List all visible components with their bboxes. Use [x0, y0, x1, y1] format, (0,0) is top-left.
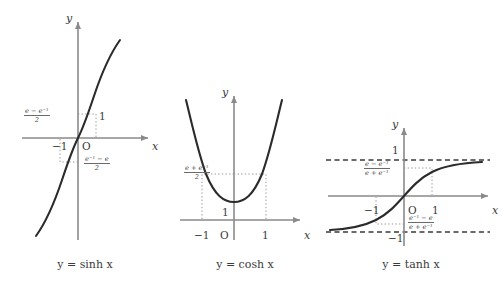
tanh-caption: y = tanh x — [320, 258, 502, 271]
cosh-svg — [170, 8, 320, 248]
tanh-ytick-negative-numerator: e⁻¹ − e — [408, 214, 434, 222]
cosh-x-arrowhead — [293, 217, 300, 223]
plot-cosh — [170, 8, 320, 248]
sinh-ytick-negative: e⁻¹ − e 2 — [84, 155, 110, 172]
sinh-xtick-1: 1 — [99, 110, 106, 122]
tanh-ytick-positive: e − e⁻¹ e + e⁻¹ — [364, 160, 390, 177]
tanh-x-axis-label: x — [492, 204, 498, 217]
sinh-caption: y = sinh x — [0, 258, 170, 271]
cosh-ytick-one: 1 — [222, 206, 229, 218]
sinh-ytick-positive-denominator: 2 — [24, 115, 50, 124]
tanh-ytick-negative-denominator: e + e⁻¹ — [408, 222, 434, 231]
sinh-xtick-neg1: −1 — [52, 140, 67, 152]
plot-sinh — [0, 8, 170, 248]
cosh-y-arrowhead — [231, 96, 237, 103]
sinh-y-axis-label: y — [66, 12, 72, 25]
cosh-ytick-value-denominator: 2 — [184, 172, 210, 181]
cosh-y-axis-label: y — [222, 86, 228, 99]
cosh-caption: y = cosh x — [170, 258, 320, 271]
tanh-ytick-neg-one: −1 — [388, 232, 403, 244]
cosh-origin-label: O — [220, 229, 229, 241]
tanh-ytick-one: 1 — [392, 144, 399, 156]
sinh-ytick-negative-denominator: 2 — [84, 163, 110, 172]
panel-tanh: y x O −1 1 1 −1 e − e⁻¹ e + e⁻¹ e⁻¹ − e … — [320, 0, 502, 295]
sinh-ytick-positive: e − e⁻¹ 2 — [24, 107, 50, 124]
panel-cosh: y x O −1 1 1 e + e⁻¹ 2 y = cosh x — [170, 0, 320, 295]
sinh-x-arrowhead — [141, 135, 148, 141]
tanh-y-axis-label: y — [392, 118, 398, 131]
tanh-ytick-negative: e⁻¹ − e e + e⁻¹ — [408, 214, 434, 231]
tanh-x-arrowhead — [481, 193, 488, 199]
cosh-xtick-1: 1 — [262, 229, 269, 241]
tanh-xtick-neg1: −1 — [364, 204, 379, 216]
panel-sinh: y x O −1 1 e − e⁻¹ 2 e⁻¹ − e 2 y = sinh … — [0, 0, 170, 295]
sinh-ytick-negative-numerator: e⁻¹ − e — [84, 155, 110, 163]
sinh-x-axis-label: x — [152, 140, 158, 153]
cosh-xtick-neg1: −1 — [194, 229, 209, 241]
cosh-guide-right — [234, 174, 266, 220]
cosh-ytick-value-numerator: e + e⁻¹ — [184, 164, 210, 172]
sinh-origin-label: O — [82, 140, 91, 152]
sinh-y-arrowhead — [75, 22, 81, 29]
cosh-x-axis-label: x — [304, 229, 310, 242]
tanh-y-arrowhead — [401, 128, 407, 135]
sinh-ytick-positive-numerator: e − e⁻¹ — [24, 107, 50, 115]
tanh-ytick-positive-numerator: e − e⁻¹ — [364, 160, 390, 168]
cosh-ytick-value: e + e⁻¹ 2 — [184, 164, 210, 181]
sinh-svg — [0, 8, 170, 248]
tanh-ytick-positive-denominator: e + e⁻¹ — [364, 168, 390, 177]
